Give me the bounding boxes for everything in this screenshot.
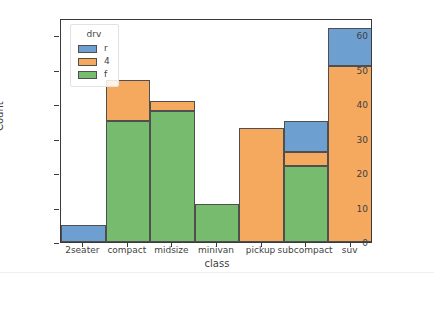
legend-entry-4: 4 — [78, 55, 110, 68]
x-tick-label-subcompact: subcompact — [278, 246, 333, 255]
bar-segment-subcompact-4[interactable] — [284, 152, 329, 166]
bar-segment-midsize-f[interactable] — [150, 111, 195, 242]
legend-swatch-4 — [78, 58, 97, 66]
y-tick-label-10: 10 — [328, 204, 368, 213]
bar-segment-2seater-r[interactable] — [61, 225, 106, 242]
bar-subcompact[interactable] — [284, 20, 329, 242]
y-tick-label-20: 20 — [328, 170, 368, 179]
legend-label-4: 4 — [104, 57, 110, 66]
x-tick-label-midsize: midsize — [154, 246, 188, 255]
bar-pickup[interactable] — [239, 20, 284, 242]
x-tick-label-minivan: minivan — [198, 246, 234, 255]
legend: drv r4f — [70, 24, 119, 87]
bar-minivan[interactable] — [195, 20, 240, 242]
bar-segment-midsize-4[interactable] — [150, 101, 195, 111]
y-tick-label-30: 30 — [328, 135, 368, 144]
bar-segment-minivan-f[interactable] — [195, 204, 240, 242]
figure-toolbar: x=compact y=14.68 — [0, 272, 434, 311]
y-tick-label-40: 40 — [328, 101, 368, 110]
y-tick-label-60: 60 — [328, 32, 368, 41]
y-axis-label: Count — [0, 101, 5, 131]
y-tick-mark-0 — [54, 243, 59, 244]
y-tick-mark-10 — [54, 209, 59, 210]
y-tick-mark-50 — [54, 71, 59, 72]
legend-entries: r4f — [78, 42, 110, 81]
legend-title: drv — [78, 29, 110, 39]
legend-entry-r: r — [78, 42, 110, 55]
chart-canvas[interactable]: Count class 2seatercompactmidsizeminivan… — [0, 0, 434, 272]
matplotlib-figure-window: Count class 2seatercompactmidsizeminivan… — [0, 0, 434, 311]
bar-segment-compact-f[interactable] — [106, 121, 151, 242]
bar-midsize[interactable] — [150, 20, 195, 242]
y-tick-label-50: 50 — [328, 66, 368, 75]
y-tick-mark-60 — [54, 36, 59, 37]
x-axis-label: class — [0, 258, 434, 269]
legend-entry-f: f — [78, 68, 110, 81]
legend-swatch-r — [78, 45, 97, 53]
x-tick-label-2seater: 2seater — [65, 246, 99, 255]
bar-segment-subcompact-f[interactable] — [284, 166, 329, 242]
x-tick-label-pickup: pickup — [246, 246, 276, 255]
x-tick-label-compact: compact — [107, 246, 146, 255]
bar-segment-subcompact-r[interactable] — [284, 121, 329, 152]
bar-segment-pickup-4[interactable] — [239, 128, 284, 242]
y-tick-label-0: 0 — [328, 239, 368, 248]
y-tick-mark-30 — [54, 140, 59, 141]
legend-label-r: r — [104, 44, 108, 53]
bar-segment-suv-4[interactable] — [328, 66, 371, 242]
y-tick-mark-20 — [54, 174, 59, 175]
y-tick-mark-40 — [54, 105, 59, 106]
legend-label-f: f — [104, 70, 107, 79]
legend-swatch-f — [78, 71, 97, 79]
